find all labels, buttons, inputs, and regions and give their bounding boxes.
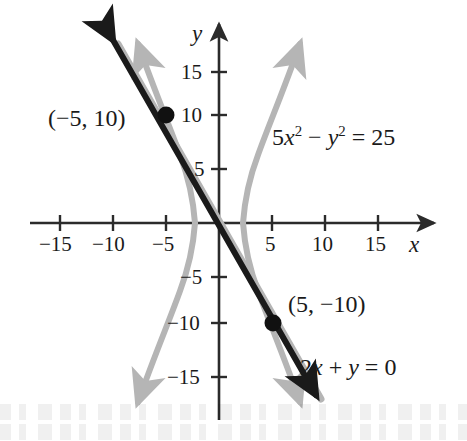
line-equation-label: 2x + y = 0: [300, 355, 396, 379]
point-label-upper-text: (−5, 10): [48, 105, 126, 131]
line-eq-var-y: y: [348, 354, 359, 380]
hyperbola-eq-exp-x: 2: [295, 123, 302, 139]
point-label-upper-left: (−5, 10): [48, 106, 126, 130]
hyperbola-eq-exp-y: 2: [338, 123, 345, 139]
y-tick-label-15: 15: [181, 62, 202, 83]
x-tick-label-10: 10: [312, 234, 333, 255]
point-marker-lower-right: [265, 315, 282, 332]
y-tick-label-10: 10: [181, 105, 202, 126]
hyperbola-eq-coef: 5: [272, 124, 284, 150]
graph-figure: y x −15 −10 −5 5 10 15 15 10 5 −5 −10 −1…: [0, 0, 467, 441]
x-tick-label--10: −10: [92, 234, 125, 255]
coordinate-plane: [0, 0, 467, 441]
line-eq-var-x: x: [312, 354, 323, 380]
line-curve: [113, 40, 316, 395]
hyperbola-eq-equals: =: [346, 124, 372, 150]
point-label-lower-text: (5, −10): [288, 291, 366, 317]
hyperbola-equation-label: 5x2 − y2 = 25: [272, 124, 395, 149]
x-tick-label--15: −15: [39, 234, 72, 255]
y-tick-label-5: 5: [194, 159, 205, 180]
line-eq-coef: 2: [300, 354, 312, 380]
line-eq-equals: =: [359, 354, 385, 380]
line-eq-plus: +: [323, 354, 349, 380]
y-tick-label--5: −5: [180, 267, 202, 288]
line-eq-rhs: 0: [384, 354, 396, 380]
x-tick-label--5: −5: [152, 234, 174, 255]
y-tick-label--10: −10: [167, 313, 200, 334]
hyperbola-eq-var-x: x: [284, 124, 295, 150]
hyperbola-eq-var-y: y: [328, 124, 339, 150]
point-marker-upper-left: [158, 107, 175, 124]
y-tick-label--15: −15: [167, 367, 200, 388]
y-axis-label: y: [192, 22, 202, 45]
point-label-lower-right: (5, −10): [288, 292, 366, 316]
hyperbola-eq-rhs: 25: [371, 124, 395, 150]
hyperbola-eq-minus: −: [302, 124, 328, 150]
x-axis-label: x: [409, 233, 419, 256]
x-tick-label-5: 5: [265, 234, 276, 255]
x-tick-label-15: 15: [365, 234, 386, 255]
